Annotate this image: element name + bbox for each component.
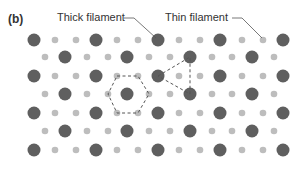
- thin-filament-dot: [105, 54, 112, 61]
- thick-filament-dot: [59, 88, 72, 101]
- thin-filament-dot: [176, 37, 183, 44]
- thick-filament-dot: [90, 70, 103, 83]
- thin-filament-dot: [271, 128, 278, 135]
- thin-filament-dot: [271, 91, 278, 98]
- thick-filament-dot: [277, 70, 290, 83]
- thin-filament-dot: [239, 37, 246, 44]
- thick-filament-dot: [121, 88, 134, 101]
- thin-filament-dot: [229, 54, 236, 61]
- thin-filament-dot: [239, 73, 246, 80]
- panel-label: (b): [8, 12, 23, 26]
- thick-leader-line: [124, 18, 156, 38]
- thin-filament-dot: [197, 73, 204, 80]
- thin-filament-dot: [84, 128, 91, 135]
- thin-filament-dot: [84, 91, 91, 98]
- thick-filament-dot: [28, 34, 41, 47]
- thin-filament-dot: [73, 73, 80, 80]
- thin-filament-dot: [114, 37, 121, 44]
- thin-filament-dot: [146, 54, 153, 61]
- thin-filament-dot: [146, 91, 153, 98]
- thin-filament-dot: [260, 110, 267, 117]
- thin-filament-dot: [209, 128, 216, 135]
- thin-filament-dot: [52, 73, 59, 80]
- thin-filament-dot: [209, 91, 216, 98]
- thin-filament-dot: [42, 54, 49, 61]
- thin-filament-dot: [42, 128, 49, 135]
- thick-filament-dot: [277, 144, 290, 157]
- thick-filament-dot: [246, 125, 259, 138]
- thick-filament-dot: [152, 144, 165, 157]
- thin-filament-dot: [52, 37, 59, 44]
- thick-filament-dot: [214, 70, 227, 83]
- thin-filament-dot: [197, 37, 204, 44]
- thin-filament-dot: [135, 37, 142, 44]
- thin-filament-dot: [197, 110, 204, 117]
- thin-filament-dot: [176, 73, 183, 80]
- thin-filament-dot: [239, 147, 246, 154]
- thin-filament-dot: [229, 128, 236, 135]
- thin-filament-dot: [176, 110, 183, 117]
- thick-filament-dot: [246, 88, 259, 101]
- thick-filament-dot: [214, 34, 227, 47]
- thick-filament-dot: [28, 107, 41, 120]
- thin-filament-dot: [135, 147, 142, 154]
- thick-filament-dot: [184, 125, 197, 138]
- thick-filament-dot: [90, 107, 103, 120]
- thin-filament-label: Thin filament: [165, 11, 228, 23]
- thin-filament-dot: [73, 110, 80, 117]
- thin-filament-dot: [167, 91, 174, 98]
- thick-filament-dot: [152, 107, 165, 120]
- thin-filament-dot: [167, 54, 174, 61]
- thin-filament-dot: [271, 54, 278, 61]
- thin-filament-dot: [209, 54, 216, 61]
- filament-dots: [28, 34, 290, 157]
- thin-filament-dot: [197, 147, 204, 154]
- thick-filament-dot: [28, 144, 41, 157]
- thick-filament-dot: [90, 34, 103, 47]
- thin-filament-dot: [260, 37, 267, 44]
- thin-filament-dot: [52, 147, 59, 154]
- thin-filament-dot: [105, 128, 112, 135]
- thick-filament-dot: [277, 34, 290, 47]
- thin-filament-dot: [84, 54, 91, 61]
- thick-filament-dot: [214, 144, 227, 157]
- thick-filament-dot: [277, 107, 290, 120]
- thick-filament-dot: [59, 51, 72, 64]
- thin-filament-dot: [176, 147, 183, 154]
- thick-filament-dot: [59, 125, 72, 138]
- thin-leader-line: [232, 18, 262, 38]
- thin-filament-dot: [42, 91, 49, 98]
- thin-filament-dot: [229, 91, 236, 98]
- thin-filament-dot: [73, 37, 80, 44]
- thin-filament-dot: [260, 73, 267, 80]
- thin-filament-dot: [239, 110, 246, 117]
- thick-filament-dot: [90, 144, 103, 157]
- thin-filament-dot: [52, 110, 59, 117]
- thick-filament-label: Thick filament: [57, 11, 125, 23]
- filament-lattice-diagram: (b) Thick filament Thin filament: [0, 0, 308, 172]
- lattice-canvas: [0, 0, 308, 172]
- thick-filament-dot: [214, 107, 227, 120]
- thick-filament-dot: [184, 51, 197, 64]
- thin-filament-dot: [167, 128, 174, 135]
- thin-filament-dot: [114, 147, 121, 154]
- thick-filament-dot: [246, 51, 259, 64]
- thick-filament-dot: [121, 51, 134, 64]
- thick-filament-dot: [28, 70, 41, 83]
- thin-filament-dot: [146, 128, 153, 135]
- thin-filament-dot: [260, 147, 267, 154]
- dashed-overlays: [108, 57, 190, 113]
- thin-filament-dot: [73, 147, 80, 154]
- thick-filament-dot: [121, 125, 134, 138]
